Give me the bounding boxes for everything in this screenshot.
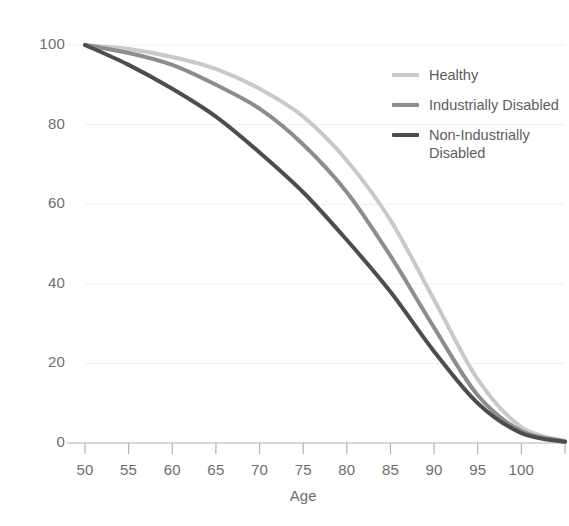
legend-item-label: Healthy [429,66,478,84]
y-axis-tick-label: 20 [8,353,65,370]
x-axis-tick-label: 75 [280,461,326,478]
legend-line-swatch-icon [392,103,419,107]
x-axis-tick-label: 65 [193,461,239,478]
legend-item[interactable]: Industrially Disabled [392,96,564,114]
x-axis-tick-label: 55 [106,461,152,478]
legend-item-label: Non-Industrially Disabled [429,126,564,162]
x-axis-tick-label: 90 [411,461,457,478]
y-axis-tick-label: 60 [8,194,65,211]
legend-item-label: Industrially Disabled [429,96,559,114]
x-axis-title: Age [243,487,363,504]
chart-legend: HealthyIndustrially DisabledNon-Industri… [392,66,564,174]
x-axis-tick-label: 80 [324,461,370,478]
x-axis-tick-label: 100 [498,461,544,478]
x-axis-tick-label: 60 [149,461,195,478]
x-axis-tick-label: 95 [455,461,501,478]
x-axis-tick-label: 70 [237,461,283,478]
y-axis-tick-label: 80 [8,115,65,132]
y-axis-tick-label: 40 [8,274,65,291]
legend-line-swatch-icon [392,73,419,77]
legend-line-swatch-icon [392,133,419,137]
x-axis-tick-label: 50 [62,461,108,478]
legend-item[interactable]: Non-Industrially Disabled [392,126,564,162]
survival-curve-chart: 020406080100 50556065707580859095100 Age… [0,0,569,526]
y-axis-tick-label: 100 [8,35,65,52]
legend-item[interactable]: Healthy [392,66,564,84]
x-axis-tick-label: 85 [367,461,413,478]
y-axis-tick-label: 0 [8,433,65,450]
